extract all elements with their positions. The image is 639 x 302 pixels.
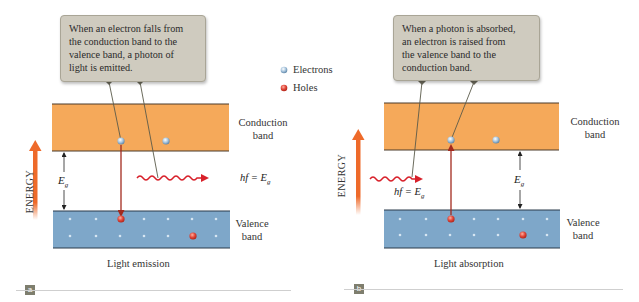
- conduction-band-label-a: Conduction band: [233, 116, 293, 142]
- energy-label-a: ENERGY: [24, 166, 35, 218]
- callout-line: conduction band.: [402, 61, 532, 74]
- electron-b-2: [492, 136, 499, 143]
- callout-line: light is emitted.: [69, 61, 198, 74]
- callout-line: an electron is raised from: [402, 35, 532, 48]
- hole-a-1: [117, 215, 124, 222]
- energy-arrow-a: [29, 140, 42, 151]
- callout-line: When a photon is absorbed,: [402, 22, 532, 35]
- callout-emission: When an electron falls from the conducti…: [60, 15, 206, 82]
- callout-line: the conduction band to the: [69, 35, 198, 48]
- energy-arrow-b: [352, 129, 365, 140]
- legend-electron-icon: [281, 67, 288, 74]
- legend-holes-label: Holes: [293, 81, 318, 94]
- hole-b-2: [519, 231, 526, 238]
- valence-band-label-a: Valence band: [232, 217, 272, 243]
- conduction-band-label-b: Conduction band: [562, 115, 628, 141]
- divider-b: [344, 289, 623, 290]
- callout-absorption: When a photon is absorbed, an electron i…: [393, 15, 540, 81]
- gap-label-b: Eg: [514, 173, 524, 188]
- electron-a-2: [162, 137, 169, 144]
- caption-a: Light emission: [107, 258, 170, 269]
- electron-b-1: [447, 136, 454, 143]
- valence-band-a: [53, 211, 230, 248]
- photon-energy-label-b: hf = Eg: [394, 186, 424, 200]
- legend-electrons-label: Electrons: [293, 63, 333, 76]
- valence-band-label-b: Valence band: [562, 216, 604, 242]
- divider-a: [16, 290, 291, 291]
- electron-a-1: [117, 137, 124, 144]
- callout-line: valence band, a photon of: [69, 48, 198, 61]
- gap-label-a: Eg: [58, 174, 68, 189]
- panel-b-graphics: [352, 81, 560, 248]
- callout-line: When an electron falls from: [69, 22, 198, 35]
- photon-wave-b: [370, 177, 421, 181]
- legend-hole-icon: [281, 85, 288, 92]
- callout-line: the valence band to the: [402, 48, 532, 61]
- photon-wave-a: [137, 176, 207, 180]
- hole-b-1: [447, 215, 454, 222]
- caption-b: Light absorption: [434, 258, 504, 269]
- hole-a-2: [189, 232, 196, 239]
- conduction-band-b: [384, 103, 559, 150]
- valence-band-b: [384, 210, 560, 248]
- photon-energy-label-a: hf = Eg: [240, 172, 270, 186]
- conduction-band-a: [52, 104, 229, 151]
- energy-label-b: ENERGY: [336, 150, 347, 202]
